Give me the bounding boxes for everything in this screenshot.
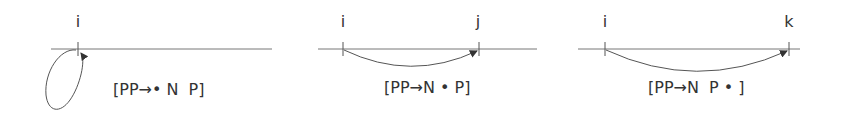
item-label-2: [PP→N • P] <box>384 80 470 96</box>
arc-i-j <box>344 50 477 66</box>
panel-1 <box>46 42 272 109</box>
arc-i-k <box>606 50 787 71</box>
item-label-1: [PP→• N P] <box>113 82 205 98</box>
node-label-j: j <box>476 14 480 30</box>
panel-2 <box>318 42 537 66</box>
node-label-i: i <box>603 14 607 30</box>
chart-arcs-diagram <box>0 0 843 121</box>
node-label-i: i <box>341 14 345 30</box>
self-loop-arc <box>46 50 83 109</box>
panel-3 <box>578 42 800 71</box>
node-label-i: i <box>76 14 80 30</box>
item-label-3: [PP→N P • ] <box>648 80 745 96</box>
node-label-k: k <box>784 14 793 30</box>
